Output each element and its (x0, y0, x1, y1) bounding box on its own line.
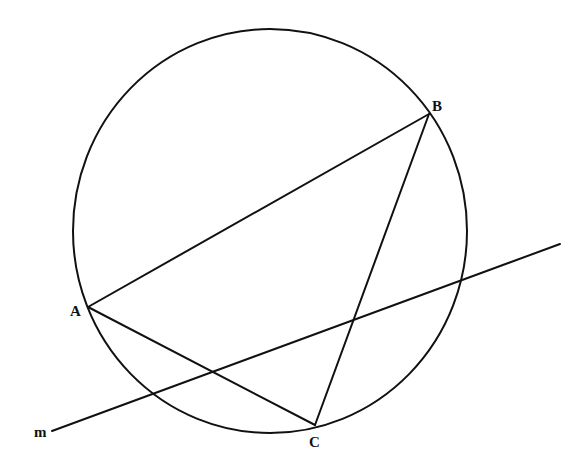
point-label-c: C (309, 434, 320, 450)
point-label-a: A (70, 303, 81, 319)
circumcircle (73, 29, 467, 433)
segment-ac (88, 307, 315, 425)
segment-ab (88, 114, 429, 307)
line-label-m: m (34, 424, 47, 440)
point-label-b: B (432, 98, 442, 114)
segment-bc (315, 114, 429, 425)
geometry-diagram: A B C m (0, 0, 585, 468)
line-m (52, 244, 560, 431)
